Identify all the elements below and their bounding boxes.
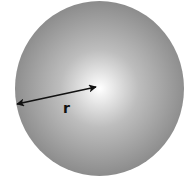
radius-label: r (63, 100, 70, 116)
sphere-radius-diagram: r (0, 0, 190, 188)
sphere (15, 1, 184, 176)
